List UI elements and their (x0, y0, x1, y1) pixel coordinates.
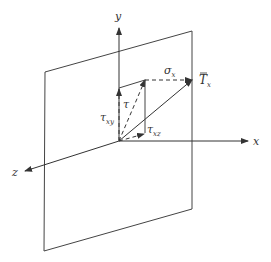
x-axis-label: x (253, 135, 260, 148)
construction-line-top (119, 80, 145, 88)
shear-xz-label: τxz (147, 123, 161, 138)
z-axis-label: z (11, 166, 18, 179)
stress-diagram: y x z σx Tx τ τxy τxz (0, 0, 271, 262)
z-axis (25, 141, 119, 171)
shear-xy-label: τxy (100, 111, 115, 126)
traction-label: Tx (199, 73, 211, 89)
y-axis-label: y (114, 10, 122, 23)
normal-stress-label: σx (164, 64, 176, 79)
shear-stress-label: τ (123, 98, 130, 111)
